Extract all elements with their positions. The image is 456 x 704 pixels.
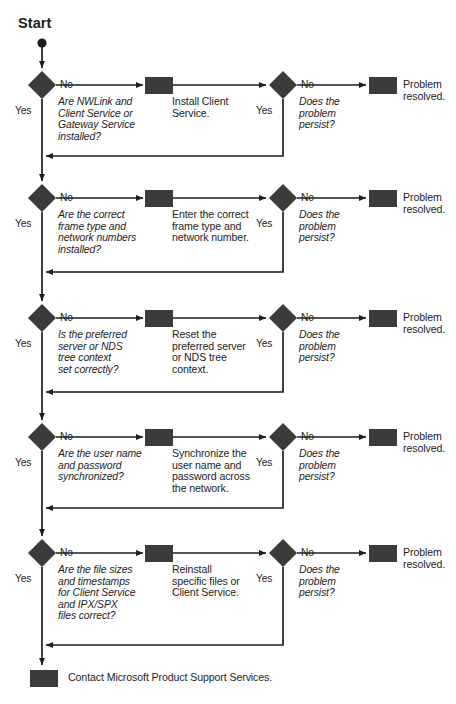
start-label: Start xyxy=(18,16,52,31)
row-2-recheck-question: Does the problem persist? xyxy=(299,209,369,244)
row-4-recheck-yes-label: Yes xyxy=(256,457,272,469)
row-5-recheck-question: Does the problem persist? xyxy=(299,564,369,599)
row-1-resolved-label: Problem resolved. xyxy=(403,79,456,102)
row-2-resolved-label: Problem resolved. xyxy=(403,192,456,215)
row-5-recheck-no-label: No xyxy=(301,547,314,559)
row-2-yes-label: Yes xyxy=(15,218,31,230)
footer-label: Contact Microsoft Product Support Servic… xyxy=(68,672,348,684)
row-5-no-label: No xyxy=(60,547,73,559)
row-1-recheck-yes-label: Yes xyxy=(256,105,272,117)
row-4-question: Are the user name and password synchroni… xyxy=(58,448,158,483)
row-2-recheck-no-label: No xyxy=(301,192,314,204)
row-1-no-label: No xyxy=(60,79,73,91)
row-5-recheck-yes-label: Yes xyxy=(256,573,272,585)
row-4-recheck-no-label: No xyxy=(301,431,314,443)
row-4-yes-label: Yes xyxy=(15,457,31,469)
row-2-recheck-yes-label: Yes xyxy=(256,218,272,230)
row-3-no-label: No xyxy=(60,312,73,324)
start-node xyxy=(37,38,46,68)
row-3-action: Reset the preferred server or NDS tree c… xyxy=(172,329,272,375)
row-3-yes-label: Yes xyxy=(15,338,31,350)
row-1-yes-label: Yes xyxy=(15,105,31,117)
row-4-recheck-question: Does the problem persist? xyxy=(299,448,369,483)
row-3-recheck-no-label: No xyxy=(301,312,314,324)
row-1-question: Are NWLink and Client Service or Gateway… xyxy=(58,96,153,142)
row-3-recheck-question: Does the problem persist? xyxy=(299,329,369,364)
row-5-yes-label: Yes xyxy=(15,573,31,585)
row-4-resolved-label: Problem resolved. xyxy=(403,431,456,454)
row-1-recheck-no-label: No xyxy=(301,79,314,91)
row-4-action: Synchronize the user name and password a… xyxy=(172,448,272,494)
row-1-recheck-question: Does the problem persist? xyxy=(299,96,369,131)
row-2-question: Are the correct frame type and network n… xyxy=(58,209,153,255)
footer-graphics xyxy=(30,670,58,687)
row-2-no-label: No xyxy=(60,192,73,204)
row-3-recheck-yes-label: Yes xyxy=(256,338,272,350)
row-5-question: Are the file sizes and timestamps for Cl… xyxy=(58,564,158,622)
row-4-no-label: No xyxy=(60,431,73,443)
row-3-question: Is the preferred server or NDS tree cont… xyxy=(58,329,153,375)
row-3-resolved-label: Problem resolved. xyxy=(403,312,456,335)
row-5-resolved-label: Problem resolved. xyxy=(403,547,456,570)
